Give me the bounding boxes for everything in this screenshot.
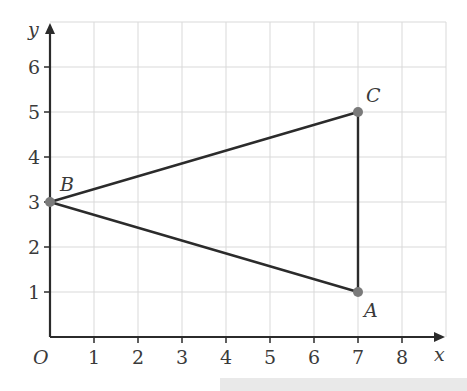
x-tick-label: 7 <box>352 346 364 368</box>
point-C-icon <box>353 107 363 117</box>
point-label-C: C <box>366 84 381 106</box>
y-tick-label: 5 <box>28 101 40 123</box>
x-axis-arrow-icon <box>434 332 445 342</box>
y-axis-arrow-icon <box>45 23 55 34</box>
grid-lines <box>50 22 446 337</box>
point-label-A: A <box>362 299 378 321</box>
coordinate-plane: 12345678123456 ABC x y O <box>0 0 467 391</box>
x-tick-label: 5 <box>264 346 276 368</box>
point-label-B: B <box>59 173 74 195</box>
y-axis-label: y <box>27 18 39 40</box>
point-B-icon <box>45 197 55 207</box>
footer-bar <box>220 378 467 391</box>
origin-label: O <box>33 346 49 368</box>
y-tick-label: 6 <box>28 56 40 78</box>
x-axis-label: x <box>434 343 445 365</box>
x-tick-label: 3 <box>176 346 188 368</box>
x-tick-label: 8 <box>396 346 408 368</box>
y-tick-label: 4 <box>28 146 40 168</box>
x-tick-label: 2 <box>132 346 144 368</box>
point-A-icon <box>353 287 363 297</box>
x-tick-label: 6 <box>308 346 320 368</box>
axes <box>45 23 445 342</box>
y-tick-label: 3 <box>28 191 40 213</box>
x-tick-label: 4 <box>220 346 232 368</box>
x-tick-label: 1 <box>88 346 100 368</box>
y-tick-label: 1 <box>28 281 40 303</box>
y-tick-label: 2 <box>28 236 40 258</box>
